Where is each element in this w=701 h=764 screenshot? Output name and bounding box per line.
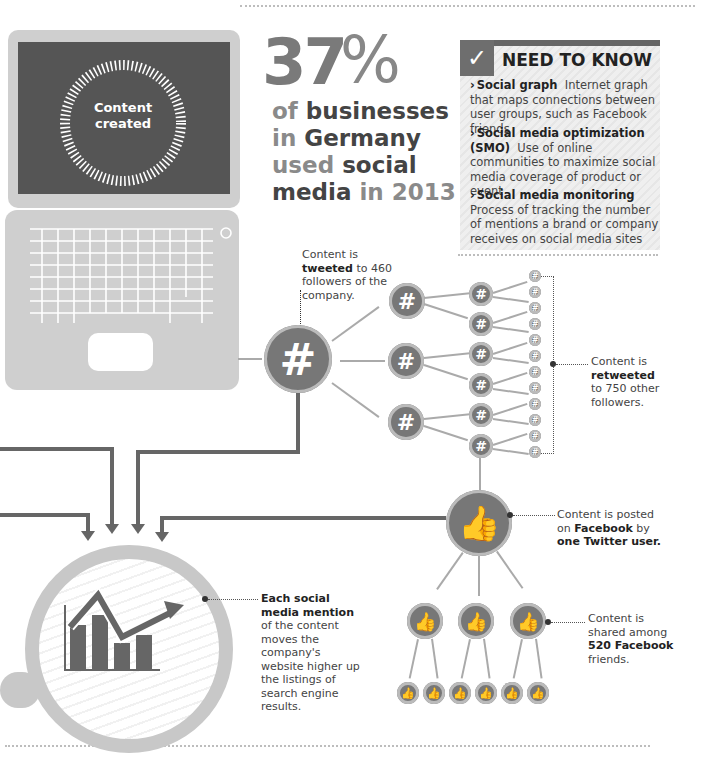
connector xyxy=(493,418,529,425)
thumbs-up-icon: 👍 xyxy=(475,682,497,704)
pipe xyxy=(136,450,300,454)
leader-line xyxy=(513,515,555,516)
top-divider xyxy=(240,5,695,7)
connector xyxy=(535,639,543,679)
hashtag-icon: # xyxy=(529,366,541,378)
connector xyxy=(424,413,470,420)
thumbs-up-icon: 👍 xyxy=(423,682,445,704)
thumbs-up-icon: 👍 xyxy=(501,682,523,704)
connector xyxy=(493,342,528,355)
hashtag-icon: # xyxy=(529,334,541,346)
hashtag-icon: # xyxy=(469,342,493,366)
shared-annotation: Content is shared among 520 Facebook fri… xyxy=(588,612,678,666)
connector xyxy=(424,292,470,299)
leader-line xyxy=(556,364,588,365)
connector xyxy=(238,358,262,360)
percent-sign: % xyxy=(340,28,401,92)
magnifier-handle xyxy=(0,672,40,708)
seo-annotation: Each social media mention of the content… xyxy=(261,592,361,714)
keyboard-grid-icon xyxy=(28,225,238,325)
thumbs-up-icon: 👍 xyxy=(407,603,443,639)
connector xyxy=(493,281,528,294)
thumbs-up-icon: 👍 xyxy=(527,682,549,704)
connector xyxy=(424,303,468,319)
leader-line xyxy=(551,622,585,623)
hashtag-icon: # xyxy=(388,343,424,379)
hashtag-icon: # xyxy=(529,382,541,394)
hashtag-icon: # xyxy=(529,398,541,410)
pipe xyxy=(110,447,114,525)
leader-line xyxy=(300,290,301,328)
tweeted-annotation: Content is tweeted to 460 followers of t… xyxy=(302,248,392,302)
pipe xyxy=(0,513,90,517)
thumbs-up-icon: 👍 xyxy=(458,603,494,639)
hashtag-icon: # xyxy=(469,373,493,397)
connector xyxy=(493,433,528,446)
connector xyxy=(496,551,523,589)
growth-chart-icon xyxy=(60,585,190,675)
connector xyxy=(479,458,481,490)
connector xyxy=(409,639,419,679)
hashtag-icon: # xyxy=(529,302,541,314)
checkmark-icon: ✓ xyxy=(460,40,494,76)
glossary-item: ›Social media monitoring Process of trac… xyxy=(470,188,660,246)
hashtag-icon: # xyxy=(529,286,541,298)
stat-number: 37 xyxy=(262,30,345,94)
connector xyxy=(340,360,385,362)
stat-description: of businesses in Germany used social med… xyxy=(272,98,456,206)
hashtag-icon: # xyxy=(469,434,493,458)
pipe xyxy=(136,450,140,526)
connector xyxy=(424,364,468,380)
need-to-know-divider xyxy=(458,254,658,256)
connector xyxy=(461,639,471,679)
thumbs-up-icon: 👍 xyxy=(446,490,512,556)
connector xyxy=(483,639,491,679)
arrow-down-icon xyxy=(155,532,169,542)
hashtag-icon: # xyxy=(469,403,493,427)
facebook-annotation: Content is posted on Facebook by one Twi… xyxy=(557,508,667,549)
hashtag-icon: # xyxy=(469,282,493,306)
pipe xyxy=(86,513,90,533)
thumbs-up-icon: 👍 xyxy=(449,682,471,704)
connector xyxy=(331,306,379,342)
content-created-label: Content created xyxy=(68,100,178,132)
hashtag-icon: # xyxy=(389,283,425,319)
connector xyxy=(493,448,529,455)
thumbs-up-icon: 👍 xyxy=(510,603,546,639)
pipe xyxy=(296,393,300,453)
connector xyxy=(493,326,529,333)
thumbs-up-icon: 👍 xyxy=(397,682,419,704)
connector xyxy=(331,382,379,418)
connector xyxy=(478,556,480,596)
hashtag-icon: # xyxy=(529,430,541,442)
hashtag-icon: # xyxy=(264,325,332,393)
laptop-trackpad xyxy=(88,333,153,371)
arrow-down-icon xyxy=(131,524,145,534)
connector xyxy=(493,372,528,385)
arrow-down-icon xyxy=(105,524,119,534)
connector xyxy=(431,639,439,679)
connector xyxy=(493,296,529,303)
pipe xyxy=(0,447,114,451)
connector xyxy=(424,352,470,359)
pipe xyxy=(164,516,446,520)
connector xyxy=(493,388,529,395)
connector xyxy=(493,403,528,416)
hashtag-icon: # xyxy=(529,446,541,458)
hashtag-icon: # xyxy=(388,404,424,440)
retweeted-annotation: Content is retweeted to 750 other follow… xyxy=(591,355,681,409)
leader-line xyxy=(208,599,258,600)
connector xyxy=(424,425,468,441)
hashtag-icon: # xyxy=(529,318,541,330)
hashtag-icon: # xyxy=(529,270,541,282)
connector xyxy=(513,639,523,679)
hashtag-icon: # xyxy=(529,350,541,362)
need-to-know-title: NEED TO KNOW xyxy=(502,50,652,70)
arrow-down-icon xyxy=(81,531,95,541)
connector xyxy=(436,552,463,590)
hashtag-icon: # xyxy=(529,414,541,426)
connector xyxy=(493,311,528,324)
hashtag-icon: # xyxy=(469,312,493,336)
connector xyxy=(493,357,529,364)
